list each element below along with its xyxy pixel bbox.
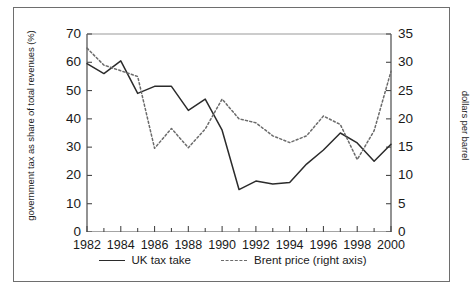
y-tick-label-right: 10 <box>398 168 428 182</box>
y-axis-right-title: dollars per barrel <box>460 26 471 226</box>
legend-item-brent-price: Brent price (right axis) <box>221 254 366 266</box>
y-axis-left-title: government tax as share of total revenue… <box>25 26 36 226</box>
y-tick-label-left: 0 <box>51 225 81 239</box>
x-tick-label: 2000 <box>371 239 411 252</box>
y-axis-right-ticks <box>386 34 391 232</box>
y-tick-label-left: 30 <box>51 140 81 154</box>
legend-swatch-dashed-line <box>221 260 247 261</box>
y-tick-label-left: 50 <box>51 84 81 98</box>
legend-swatch-solid-line <box>99 260 125 261</box>
y-tick-label-left: 60 <box>51 55 81 69</box>
plot-svg <box>74 27 404 232</box>
y-tick-label-left: 70 <box>51 27 81 41</box>
chart-frame: government tax as share of total revenue… <box>13 7 450 282</box>
plot-area: 010203040506070 05101520253035 198219841… <box>74 27 404 232</box>
y-tick-label-right: 0 <box>398 225 428 239</box>
legend-item-uk-tax-take: UK tax take <box>99 254 191 266</box>
y-tick-label-left: 10 <box>51 197 81 211</box>
series-line-brent-price <box>87 48 391 159</box>
legend-label-brent-price: Brent price (right axis) <box>254 254 366 266</box>
x-axis-ticks <box>87 226 391 232</box>
y-tick-label-right: 15 <box>398 140 428 154</box>
y-tick-label-right: 20 <box>398 112 428 126</box>
series-line-uk-tax-take <box>87 61 391 190</box>
y-tick-label-left: 40 <box>51 112 81 126</box>
y-tick-label-left: 20 <box>51 168 81 182</box>
legend-label-uk-tax-take: UK tax take <box>132 254 191 266</box>
y-tick-label-right: 35 <box>398 27 428 41</box>
y-tick-label-right: 30 <box>398 55 428 69</box>
y-tick-label-right: 5 <box>398 197 428 211</box>
y-tick-label-right: 25 <box>398 84 428 98</box>
axes-group <box>87 34 391 232</box>
chart-legend: UK tax take Brent price (right axis) <box>14 254 451 266</box>
